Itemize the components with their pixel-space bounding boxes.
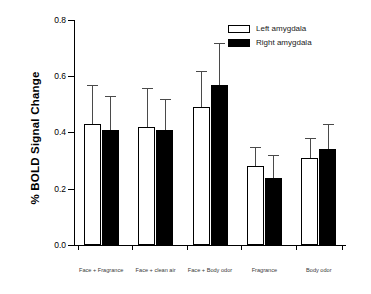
bar-left-amygdala	[247, 166, 264, 245]
bar-right-amygdala	[319, 149, 336, 245]
x-tick-mark	[78, 245, 79, 250]
error-bar-line	[92, 85, 93, 124]
error-bar-line	[273, 155, 274, 178]
legend-label: Right amygdala	[256, 39, 312, 47]
error-bar-line	[219, 43, 220, 85]
y-tick-label: 0.8	[38, 16, 66, 25]
error-bar-line	[255, 147, 256, 167]
bar-right-amygdala	[211, 85, 228, 245]
bar-left-amygdala	[84, 124, 101, 245]
error-bar-cap	[105, 96, 116, 97]
error-bar-cap	[142, 88, 153, 89]
legend: Left amygdala Right amygdala	[228, 24, 312, 52]
error-bar-line	[201, 71, 202, 108]
legend-item: Right amygdala	[228, 38, 312, 48]
legend-swatch-left-amygdala	[228, 25, 250, 33]
error-bar-cap	[268, 155, 279, 156]
x-tick-mark	[187, 245, 188, 250]
error-bar-line	[328, 124, 329, 149]
error-bar-cap	[214, 43, 225, 44]
y-tick-label: 0.4	[38, 128, 66, 137]
bar-left-amygdala	[193, 107, 210, 245]
legend-label: Left amygdala	[256, 25, 306, 33]
bar-left-amygdala	[138, 127, 155, 245]
y-tick-label: 0.2	[38, 185, 66, 194]
x-tick-mark	[132, 245, 133, 250]
y-tick-label: 0.0	[38, 241, 66, 250]
error-bar-line	[165, 99, 166, 130]
x-axis-line	[74, 245, 346, 246]
plot-area	[74, 20, 346, 245]
bar-right-amygdala	[156, 130, 173, 245]
error-bar-cap	[250, 147, 261, 148]
bar-right-amygdala	[102, 130, 119, 245]
bar-left-amygdala	[301, 158, 318, 245]
x-axis-label: Body odor	[279, 268, 359, 274]
x-tick-mark	[241, 245, 242, 250]
error-bar-cap	[160, 99, 171, 100]
y-tick-label: 0.6	[38, 72, 66, 81]
error-bar-line	[110, 96, 111, 130]
legend-item: Left amygdala	[228, 24, 312, 34]
bar-right-amygdala	[265, 178, 282, 246]
legend-swatch-right-amygdala	[228, 39, 250, 47]
x-tick-mark	[342, 245, 343, 250]
error-bar-cap	[87, 85, 98, 86]
error-bar-cap	[196, 71, 207, 72]
error-bar-cap	[323, 124, 334, 125]
error-bar-line	[310, 138, 311, 158]
error-bar-line	[147, 88, 148, 127]
bar-chart-figure: % BOLD Signal Change 0.8 0.6 0.4 0.2 0.0…	[0, 0, 371, 294]
error-bar-cap	[305, 138, 316, 139]
x-tick-mark	[296, 245, 297, 250]
